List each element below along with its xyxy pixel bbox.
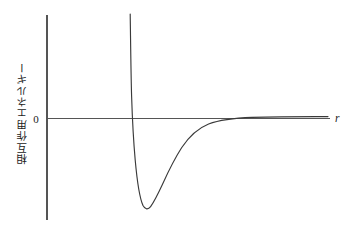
figure-container: 0 r 相互作用エネルギー: [0, 0, 347, 230]
y-axis-zero-tick-label: 0: [33, 113, 39, 125]
potential-energy-plot: 0 r: [0, 0, 347, 230]
y-axis-title-label: 相互作用エネルギー: [13, 53, 33, 173]
x-axis-variable-label: r: [335, 112, 340, 124]
interaction-energy-curve: [130, 14, 328, 209]
